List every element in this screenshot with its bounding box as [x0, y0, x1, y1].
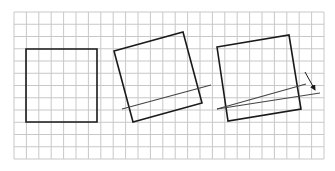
construction-line — [217, 93, 320, 109]
square-outline — [217, 35, 301, 121]
figures — [26, 32, 320, 122]
square-rotated-with-angle — [217, 35, 320, 121]
grid — [14, 12, 324, 159]
construction-line — [122, 85, 211, 109]
diagram-canvas — [0, 0, 335, 171]
arrow-icon — [305, 72, 315, 90]
square-outline — [114, 32, 202, 122]
